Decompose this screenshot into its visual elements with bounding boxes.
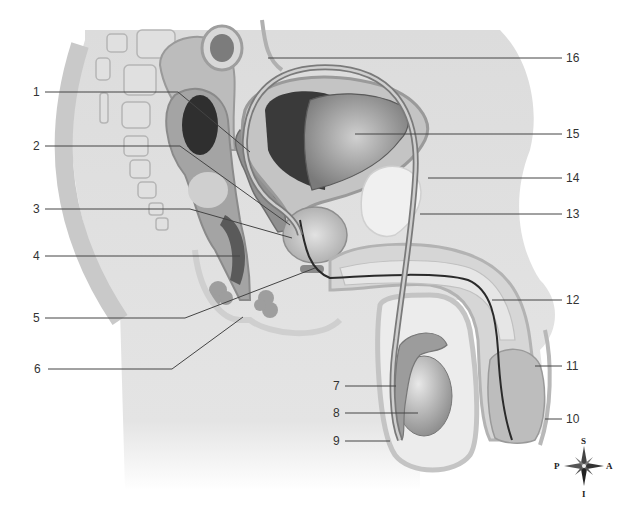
label-7: 7: [333, 379, 340, 393]
label-9: 9: [333, 434, 340, 448]
label-12: 12: [566, 293, 579, 307]
label-16: 16: [566, 51, 579, 65]
label-11: 11: [566, 359, 578, 373]
label-10: 10: [566, 412, 579, 426]
label-3: 3: [33, 202, 40, 216]
compass-rose: S I P A: [554, 436, 613, 499]
label-13: 13: [566, 207, 579, 221]
compass-anterior: A: [606, 461, 613, 471]
label-2: 2: [33, 139, 40, 153]
compass-posterior: P: [554, 461, 560, 471]
label-15: 15: [566, 127, 579, 141]
label-4: 4: [33, 249, 40, 263]
label-6: 6: [34, 362, 41, 376]
label-8: 8: [333, 406, 340, 420]
anatomy-illustration: S I P A: [0, 0, 623, 514]
label-5: 5: [33, 311, 40, 325]
label-1: 1: [33, 85, 40, 99]
label-14: 14: [566, 171, 579, 185]
glans-penis: [488, 349, 545, 443]
compass-inferior: I: [582, 489, 586, 499]
compass-superior: S: [581, 436, 586, 446]
